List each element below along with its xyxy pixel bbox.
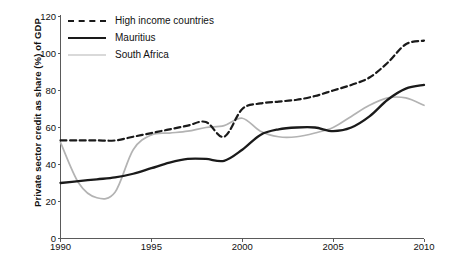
dashed-line-key-icon [68, 15, 106, 27]
data-series [61, 41, 425, 199]
chart-legend: High income countries Mauritius South Af… [68, 12, 298, 63]
figure-caption [0, 259, 453, 266]
legend-label: South Africa [115, 49, 169, 60]
legend-item-high-income: High income countries [68, 12, 298, 29]
legend-item-south-africa: South Africa [68, 46, 298, 63]
legend-item-mauritius: Mauritius [68, 29, 298, 46]
legend-label: Mauritius [115, 32, 156, 43]
grey-line-key-icon [68, 49, 106, 61]
series-line-south-africa [61, 97, 425, 199]
legend-label: High income countries [115, 15, 214, 26]
series-line-mauritius [61, 85, 425, 183]
solid-line-key-icon [68, 32, 106, 44]
chart-figure: Private sector credit as share (%) of GD… [0, 0, 453, 266]
